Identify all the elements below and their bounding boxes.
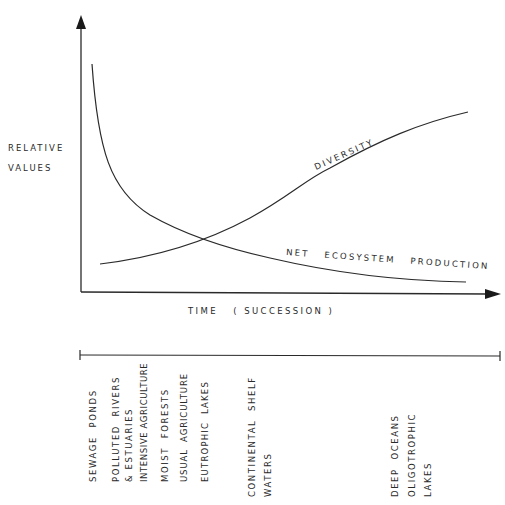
ecosystem-waters: WATERS xyxy=(263,452,273,497)
ecosystem-deep-oceans: DEEP OCEANS xyxy=(390,414,400,497)
succession-diagram: DIVERSITY NET ECOSYSTEM PRODUCTION RELAT… xyxy=(0,0,505,505)
x-axis-label: TIME ( SUCCESSION ) xyxy=(188,306,334,316)
x-axis xyxy=(81,292,488,294)
y-axis-label-line1: RELATIVE xyxy=(8,143,64,153)
ecosystem-sewage-ponds: SEWAGE PONDS xyxy=(88,389,98,482)
ecosystem-usual-agriculture: USUAL AGRICULTURE xyxy=(179,373,189,482)
ecosystem-intensive-agriculture: INTENSIVE AGRICULTURE xyxy=(139,363,149,482)
ecosystem-moist-forests: MOIST FORESTS xyxy=(160,388,170,482)
ecosystem-eutrophic-lakes: EUTROPHIC LAKES xyxy=(200,381,210,482)
ecosystem-scale-line xyxy=(80,355,500,356)
y-axis-label-line2: VALUES xyxy=(8,163,52,173)
ecosystem-polluted-rivers: POLLUTED RIVERS xyxy=(111,376,121,482)
diversity-curve xyxy=(100,112,468,264)
x-axis-arrow-icon xyxy=(485,289,501,299)
ecosystem-oligotrophic: OLIGOTROPHIC xyxy=(407,413,417,497)
y-axis-arrow-icon xyxy=(76,15,86,29)
ecosystem-continental-shelf: CONTINENTAL SHELF xyxy=(247,376,257,497)
production-curve xyxy=(92,64,466,282)
ecosystem-estuaries: & ESTUARIES xyxy=(124,408,134,482)
ecosystem-lakes: LAKES xyxy=(423,462,433,497)
diversity-label: DIVERSITY xyxy=(313,137,376,172)
